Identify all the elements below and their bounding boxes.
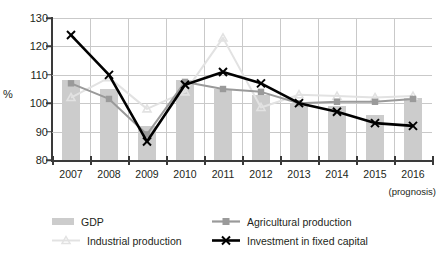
marker-agricultural-production-2016 bbox=[410, 96, 416, 102]
legend-label-investment: Investment in fixed capital bbox=[247, 235, 368, 247]
gdp-swatch-icon bbox=[52, 218, 74, 225]
legend-item-agricultural[interactable]: Agricultural production bbox=[212, 216, 351, 228]
legend-item-industrial[interactable]: Industrial production bbox=[52, 235, 212, 247]
industrial-swatch-icon bbox=[52, 235, 80, 246]
legend-item-investment[interactable]: Investment in fixed capital bbox=[212, 235, 368, 247]
x-tick-label-2015: 2015 bbox=[363, 168, 386, 180]
y-tick-label-130: 130 bbox=[18, 12, 48, 24]
x-tick-label-2012: 2012 bbox=[249, 168, 272, 180]
legend-label-gdp: GDP bbox=[81, 216, 104, 228]
x-tick-label-2008: 2008 bbox=[97, 168, 120, 180]
prognosis-note: (prognosis) bbox=[388, 186, 436, 197]
y-tick-label-110: 110 bbox=[18, 69, 48, 81]
x-tick-mark-6 bbox=[280, 156, 282, 165]
y-tick-mark-120 bbox=[46, 46, 53, 48]
y-tick-mark-130 bbox=[46, 17, 53, 19]
marker-investment-in-fixed-capital-2007 bbox=[67, 31, 75, 39]
y-tick-label-100: 100 bbox=[18, 97, 48, 109]
y-axis-title: % bbox=[3, 88, 13, 100]
legend-item-gdp[interactable]: GDP bbox=[52, 216, 212, 228]
x-tick-mark-7 bbox=[318, 156, 320, 165]
y-tick-mark-80 bbox=[46, 159, 53, 161]
x-tick-label-2016: 2016 bbox=[401, 168, 424, 180]
y-tick-mark-100 bbox=[46, 102, 53, 104]
x-tick-mark-9 bbox=[394, 156, 396, 165]
x-tick-label-2010: 2010 bbox=[173, 168, 196, 180]
x-tick-mark-2 bbox=[128, 156, 130, 165]
y-axis-tick-labels: 8090100110120130 bbox=[18, 0, 48, 264]
chart-container: % 8090100110120130 200720082009201020112… bbox=[0, 0, 442, 264]
marker-agricultural-production-2008 bbox=[106, 96, 112, 102]
legend-row-2: Industrial production Investment in fixe… bbox=[52, 231, 432, 250]
marker-agricultural-production-2012 bbox=[258, 89, 264, 95]
y-tick-mark-90 bbox=[46, 131, 53, 133]
marker-agricultural-production-2011 bbox=[220, 86, 226, 92]
x-tick-label-2007: 2007 bbox=[59, 168, 82, 180]
x-tick-mark-10 bbox=[432, 156, 434, 165]
legend-label-industrial: Industrial production bbox=[87, 235, 182, 247]
x-tick-mark-3 bbox=[166, 156, 168, 165]
agricultural-swatch-icon bbox=[212, 216, 240, 227]
investment-swatch-icon bbox=[212, 235, 240, 246]
x-tick-label-2011: 2011 bbox=[212, 168, 235, 180]
y-tick-mark-110 bbox=[46, 74, 53, 76]
x-tick-mark-8 bbox=[356, 156, 358, 165]
x-tick-label-2014: 2014 bbox=[325, 168, 348, 180]
x-tick-label-2009: 2009 bbox=[135, 168, 158, 180]
marker-agricultural-production-2015 bbox=[372, 99, 378, 105]
y-tick-label-120: 120 bbox=[18, 40, 48, 52]
legend-label-agricultural: Agricultural production bbox=[247, 216, 351, 228]
marker-agricultural-production-2014 bbox=[334, 99, 340, 105]
legend-row-1: GDP Agricultural production bbox=[52, 212, 432, 231]
y-tick-label-90: 90 bbox=[18, 126, 48, 138]
x-tick-mark-4 bbox=[204, 156, 206, 165]
x-tick-label-2013: 2013 bbox=[287, 168, 310, 180]
plot-area bbox=[52, 18, 432, 160]
line-series-layer bbox=[52, 18, 432, 160]
marker-investment-in-fixed-capital-2009 bbox=[143, 138, 151, 146]
y-tick-label-80: 80 bbox=[18, 154, 48, 166]
x-tick-mark-5 bbox=[242, 156, 244, 165]
chart-legend: GDP Agricultural production Industrial p… bbox=[52, 212, 432, 250]
marker-agricultural-production-2007 bbox=[68, 80, 74, 86]
x-tick-mark-1 bbox=[90, 156, 92, 165]
